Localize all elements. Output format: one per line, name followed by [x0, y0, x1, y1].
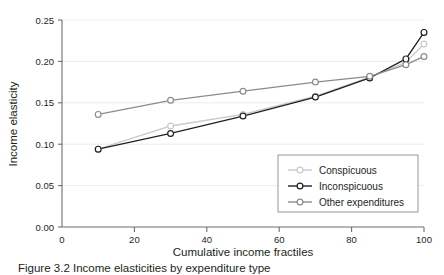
data-point-marker: [95, 111, 101, 117]
data-point-marker: [313, 79, 319, 85]
y-tick-label: 0.20: [36, 56, 55, 67]
x-tick-label: 0: [59, 234, 64, 245]
data-point-marker: [403, 56, 409, 62]
data-point-marker: [421, 54, 427, 60]
x-tick-label: 100: [416, 234, 432, 245]
y-tick-label: 0.25: [36, 15, 55, 26]
y-tick-label: 0.15: [36, 97, 55, 108]
x-tick-label: 40: [202, 234, 213, 245]
y-tick-label: 0.00: [36, 222, 55, 233]
legend-marker-1: [297, 183, 303, 189]
data-point-marker: [168, 131, 174, 137]
figure-caption: Figure 3.2 Income elasticities by expend…: [18, 262, 271, 274]
data-point-marker: [367, 73, 373, 79]
data-point-marker: [168, 123, 174, 129]
chart-legend[interactable]: ConspicuousInconspicuousOther expenditur…: [278, 155, 418, 212]
income-elasticity-line-chart: 0.000.050.100.150.200.25 020406080100 In…: [0, 0, 444, 275]
legend-label-2: Other expenditures: [319, 197, 404, 208]
x-tick-label: 60: [274, 234, 285, 245]
data-point-marker: [240, 113, 246, 119]
data-point-marker: [240, 88, 246, 94]
chart-background: [0, 0, 444, 275]
data-point-marker: [421, 30, 427, 36]
legend-label-1: Inconspicuous: [319, 181, 383, 192]
y-axis-label: Income elasticity: [7, 81, 19, 166]
y-tick-label: 0.10: [36, 139, 55, 150]
x-axis-label: Cumulative income fractiles: [173, 246, 314, 258]
figure-container: 0.000.050.100.150.200.25 020406080100 In…: [0, 0, 444, 275]
data-point-marker: [313, 94, 319, 100]
data-point-marker: [95, 146, 101, 152]
x-tick-label: 20: [129, 234, 140, 245]
legend-marker-0: [297, 167, 303, 173]
x-tick-label: 80: [346, 234, 357, 245]
data-point-marker: [403, 62, 409, 68]
data-point-marker: [421, 41, 427, 47]
legend-marker-2: [297, 199, 303, 205]
data-point-marker: [168, 97, 174, 103]
y-tick-label: 0.05: [36, 180, 55, 191]
legend-label-0: Conspicuous: [319, 165, 377, 176]
